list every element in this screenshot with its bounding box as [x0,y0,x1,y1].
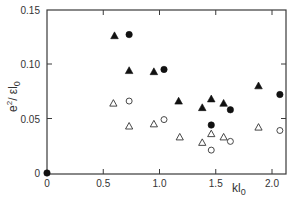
circle-filled-marker [44,170,50,176]
x-tick-label: 0 [44,178,50,189]
triangle-filled-marker [198,104,206,111]
triangle-filled-marker [175,97,183,104]
circle-filled-marker [208,122,214,128]
x-tick-label: 1.0 [153,178,167,189]
tick-labels: 00.51.01.52.000.050.100.15 [21,5,280,189]
triangle-open-marker [255,124,262,130]
y-tick-label: 0.10 [21,59,41,70]
x-tick-label: 2.0 [265,178,279,189]
triangle-filled-marker [150,68,158,75]
circle-open-marker [277,127,283,133]
circle-open-marker [227,138,233,144]
triangle-open-marker [208,130,215,136]
y-axis-label: e2/ εl0 [5,81,22,112]
y-tick-label: 0 [34,168,40,179]
y-tick-label: 0.05 [21,114,41,125]
triangle-filled-marker [125,67,133,74]
data-points [44,31,283,176]
plot-frame [47,10,286,174]
axis-ticks [47,10,286,174]
x-tick-label: 1.5 [209,178,223,189]
triangle-filled-marker [255,82,263,89]
circle-open-marker [126,98,132,104]
scatter-chart: 00.51.01.52.000.050.100.15 kl0 e2/ εl0 [0,0,293,200]
circle-filled-marker [277,91,283,97]
circle-filled-marker [227,107,233,113]
triangle-filled-marker [207,95,215,102]
triangle-open-marker [220,133,227,139]
triangle-open-marker [199,139,206,145]
triangle-open-marker [150,120,157,126]
circle-filled-marker [161,66,167,72]
triangle-open-marker [176,133,183,139]
x-tick-label: 0.5 [96,178,110,189]
y-tick-label: 0.15 [21,5,41,16]
circle-filled-marker [126,31,132,37]
triangle-filled-marker [220,99,228,106]
triangle-open-marker [126,123,133,129]
triangle-filled-marker [111,32,119,39]
circle-open-marker [161,117,167,123]
circle-open-marker [208,147,214,153]
x-axis-label: kl0 [232,181,246,197]
triangle-open-marker [110,100,117,106]
plot-box [47,10,286,174]
